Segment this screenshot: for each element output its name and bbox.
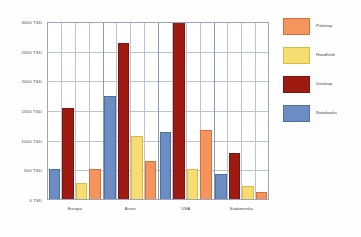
x-axis-tick-label: USA [181, 206, 190, 211]
legend-item-notebooks[interactable]: Notebooks [283, 105, 357, 134]
legend-label: Notebooks [316, 110, 337, 115]
gridline-vertical [241, 22, 242, 200]
bar-handheld-usa [187, 169, 199, 200]
y-axis-tick-label: 2000 TSD [0, 79, 42, 84]
legend-swatch-handheld [283, 47, 310, 64]
bar-notebooks-usa [160, 132, 172, 200]
bar-handheld-südamerika [242, 186, 254, 200]
bar-notebooks-südamerika [215, 174, 227, 200]
y-axis-tick-label: 0 TSD [0, 198, 42, 203]
y-axis-tick-label: 2500 TSD [0, 49, 42, 54]
gridline-vertical [255, 22, 256, 200]
bar-notebooks-europa [49, 169, 61, 200]
y-axis-tick-label: 1000 TSD [0, 138, 42, 143]
bar-handheld-asien [131, 136, 143, 200]
legend-swatch-notebooks [283, 105, 310, 122]
bar-palmtop-südamerika [256, 192, 268, 200]
gridline-vertical [75, 22, 76, 200]
y-axis-tick-label: 1500 TSD [0, 109, 42, 114]
bar-handheld-europa [76, 183, 88, 200]
bar-palmtop-usa [200, 130, 212, 200]
legend-item-handheld[interactable]: Handheld [283, 47, 357, 76]
chart-container: 0 TSD500 TSD1000 TSD1500 TSD2000 TSD2500… [0, 0, 361, 237]
x-axis-tick-label: Asien [125, 206, 136, 211]
legend-swatch-desktop [283, 76, 310, 93]
x-axis-tick-label: Südamerika [230, 206, 253, 211]
bar-desktop-europa [62, 108, 74, 200]
bar-desktop-asien [118, 43, 130, 200]
legend-item-palmtop[interactable]: Palmtop [283, 18, 357, 47]
y-axis-tick-label: 500 TSD [0, 168, 42, 173]
legend-item-desktop[interactable]: Desktop [283, 76, 357, 105]
chart-legend: PalmtopHandheldDesktopNotebooks [283, 18, 357, 134]
gridline-vertical-major [214, 22, 215, 200]
bar-palmtop-asien [145, 161, 157, 200]
bar-palmtop-europa [89, 169, 101, 200]
x-axis-tick-label: Europa [68, 206, 82, 211]
bar-desktop-usa [173, 22, 185, 200]
bar-notebooks-asien [104, 96, 116, 200]
legend-label: Palmtop [316, 23, 332, 28]
bar-desktop-südamerika [229, 153, 241, 200]
y-axis-tick-label: 3000 TSD [0, 20, 42, 25]
legend-swatch-palmtop [283, 18, 310, 35]
legend-label: Desktop [316, 81, 332, 86]
legend-label: Handheld [316, 52, 335, 57]
